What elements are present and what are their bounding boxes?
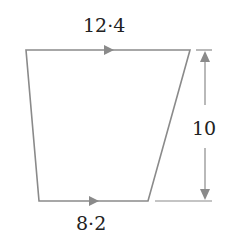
arrowhead-down-icon [200,189,210,200]
trapezium-outline [26,50,190,201]
parallel-arrow-bottom-icon [89,196,99,206]
height-label: 10 [192,117,216,140]
parallel-arrow-top-icon [104,45,114,55]
bottom-side-length-label: 8·2 [76,214,106,233]
arrowhead-up-icon [200,51,210,62]
top-side-length-label: 12·4 [83,16,125,35]
